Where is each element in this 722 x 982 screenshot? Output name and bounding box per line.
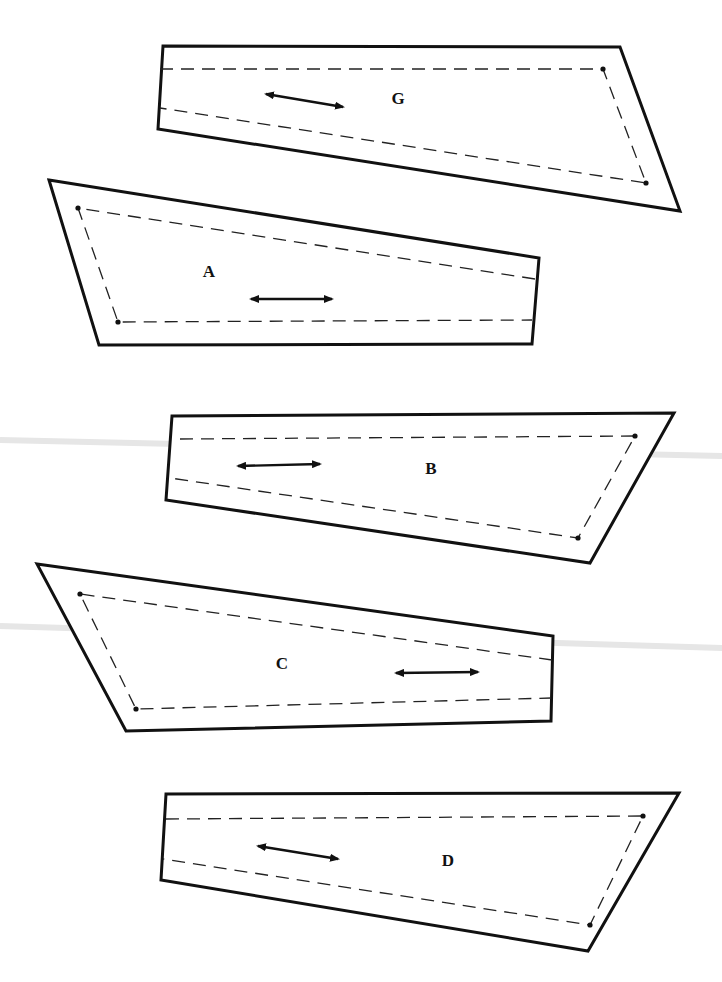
pattern-diagram: GABCD	[0, 0, 722, 982]
piece-label: G	[391, 89, 404, 108]
pattern-piece-b: B	[166, 413, 674, 563]
piece-label: C	[276, 654, 288, 673]
pattern-pieces: GABCD	[37, 46, 680, 951]
grainline-arrow-icon	[396, 672, 478, 673]
piece-outline	[37, 564, 553, 731]
piece-label: A	[203, 262, 216, 281]
corner-dot	[587, 922, 592, 927]
corner-dot	[115, 319, 120, 324]
piece-outline	[161, 793, 679, 951]
corner-dot	[77, 591, 82, 596]
corner-dot	[640, 813, 645, 818]
corner-dot	[632, 433, 637, 438]
corner-dot	[643, 180, 648, 185]
piece-label: D	[442, 851, 454, 870]
corner-dot	[133, 706, 138, 711]
pattern-piece-g: G	[158, 46, 680, 211]
corner-dot	[600, 66, 605, 71]
corner-dot	[575, 535, 580, 540]
corner-dot	[75, 205, 80, 210]
piece-label: B	[425, 459, 436, 478]
pattern-piece-d: D	[161, 793, 679, 951]
pattern-piece-c: C	[37, 564, 553, 731]
pattern-piece-a: A	[49, 180, 539, 345]
